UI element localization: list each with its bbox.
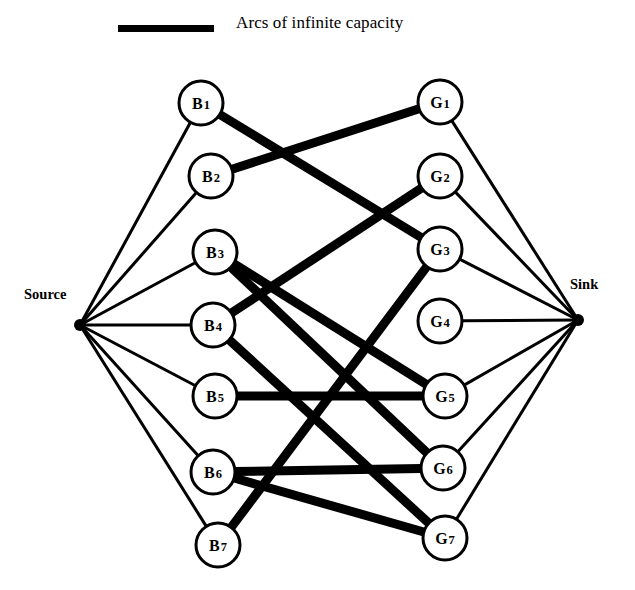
legend-label: Arcs of infinite capacity	[236, 13, 403, 33]
node-label-g4: G4	[430, 313, 450, 330]
node-label-b6: B6	[204, 464, 222, 481]
sink-arc-g7	[456, 320, 578, 519]
sink-node	[572, 314, 584, 326]
sink-label: Sink	[570, 276, 598, 293]
node-label-g7: G7	[435, 530, 455, 547]
node-label-g6: G6	[433, 460, 453, 477]
node-label-b5: B5	[206, 388, 224, 405]
source-arc-b7	[80, 325, 206, 526]
sink-arc-g2	[455, 192, 578, 320]
node-label-g2: G2	[430, 168, 450, 185]
legend-swatch-group	[118, 25, 214, 32]
infinite-capacity-arc-b4-g2	[231, 188, 421, 313]
graph-canvas: B1B2B3B4B5B6B7G1G2G3G4G5G6G7	[0, 0, 635, 590]
node-label-b1: B1	[192, 95, 210, 112]
sink-arc-g6	[458, 320, 578, 452]
source-node	[74, 319, 86, 331]
node-label-g3: G3	[430, 241, 450, 258]
node-label-g5: G5	[435, 388, 455, 405]
infinite-capacity-arc-group	[220, 109, 429, 532]
node-label-g1: G1	[430, 94, 450, 111]
sink-arc-g5	[464, 320, 578, 385]
infinite-capacity-arc-b1-g3	[220, 114, 421, 237]
source-arc-b6	[80, 325, 198, 456]
infinite-capacity-arc-b6-g6	[235, 468, 421, 471]
source-arc-b2	[80, 193, 196, 325]
sink-arc-g1	[452, 121, 578, 320]
source-label: Source	[24, 286, 66, 303]
node-label-b2: B2	[202, 168, 220, 185]
thick-line-swatch	[118, 25, 214, 32]
flow-network-figure: B1B2B3B4B5B6B7G1G2G3G4G5G6G7 Arcs of inf…	[0, 0, 635, 590]
node-label-b4: B4	[204, 317, 223, 334]
node-label-b7: B7	[209, 537, 227, 554]
sink-arc-g4	[462, 320, 578, 321]
node-label-b3: B3	[206, 244, 224, 261]
